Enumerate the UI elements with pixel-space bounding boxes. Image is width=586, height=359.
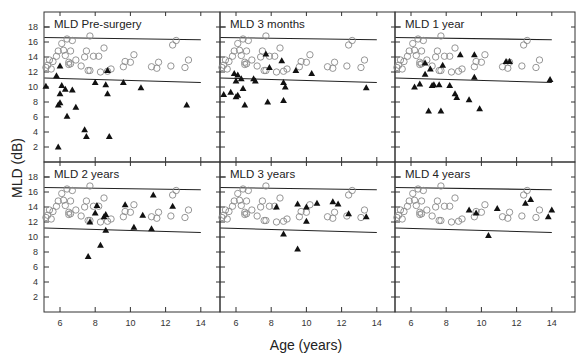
normal-point [243,48,249,54]
normal-point [131,202,137,208]
patient-point [97,242,104,248]
normal-point [418,198,424,204]
normal-point [533,64,539,70]
normal-point [520,42,526,48]
normal-point [59,40,65,46]
normal-point [243,198,249,204]
normal-point [78,63,84,69]
patient-point [314,200,321,206]
normal-point [307,52,313,58]
patient-point [457,51,464,57]
x-tick-label: 8 [444,318,449,328]
normal-point [418,48,424,54]
patient-point [363,84,370,90]
normal-point [432,204,438,210]
panel-4: 68101214MLD 3 years [219,162,395,328]
normal-point [434,198,440,204]
patient-point [308,70,315,76]
x-tick-label: 6 [57,318,62,328]
patient-point [85,253,92,259]
patient-point [278,57,285,63]
normal-point [482,202,488,208]
patient-point [150,191,157,197]
patient-point [57,99,64,105]
patient-point [329,198,336,204]
x-tick-label: 14 [547,318,557,328]
normal-point [78,213,84,219]
y-tick-label: 10 [28,232,38,242]
normal-point [536,207,542,213]
normal-point [173,187,179,193]
x-tick-label: 6 [408,318,413,328]
normal-point [536,57,542,63]
normal-point [424,207,430,213]
normal-point [361,57,367,63]
panels-group: 24681012141618MLD Pre-surgeryMLD 3 month… [28,12,575,328]
patient-point [416,80,423,86]
patient-point [87,218,94,224]
panel-5: 68101214MLD 4 years [394,162,575,328]
normal-point [358,64,364,70]
patient-point [69,86,76,92]
panel-0: 24681012141618MLD Pre-surgery [28,12,220,162]
patient-point [241,101,248,107]
normal-point [235,190,241,196]
x-tick-label: 10 [476,318,486,328]
normal-point [432,54,438,60]
normal-point [344,63,350,69]
patient-point [183,101,190,107]
normal-point [101,45,107,51]
normal-point [67,198,73,204]
patient-point [303,203,310,209]
panel-title: MLD 3 years [230,168,295,180]
normal-point [185,57,191,63]
x-tick-label: 6 [233,318,238,328]
normal-point [452,45,458,51]
patient-point [545,213,552,219]
normal-point [101,195,107,201]
normal-point [259,198,265,204]
patient-point [64,113,71,119]
normal-point [81,204,87,210]
y-tick-label: 16 [28,37,38,47]
normal-point [73,207,79,213]
patient-point [548,206,555,212]
panel-title: MLD 4 years [405,168,470,180]
normal-point [345,192,351,198]
patient-point [485,232,492,238]
normal-point [331,59,337,65]
patient-point [476,105,483,111]
normal-point [254,213,260,219]
normal-point [273,69,279,75]
y-tick-label: 16 [28,187,38,197]
y-tick-label: 4 [33,277,38,287]
normal-point [254,63,260,69]
patient-point [131,224,138,230]
patient-point [81,126,88,132]
patient-point [102,211,109,217]
normal-point [448,69,454,75]
normal-point [361,207,367,213]
y-tick-label: 6 [33,112,38,122]
normal-point [277,45,283,51]
patient-point [104,67,111,73]
patient-point [57,62,64,68]
patient-point [55,143,62,149]
normal-point [524,187,530,193]
x-tick-label: 12 [161,318,171,328]
patient-point [522,200,529,206]
panel-frame [44,162,220,312]
normal-limit-lower [220,228,376,233]
normal-point [169,42,175,48]
normal-point [168,213,174,219]
patient-point [72,104,79,110]
patient-point [494,205,501,211]
normal-point [533,214,539,220]
patient-point [294,200,301,206]
scatter-figure: 24681012141618MLD Pre-surgeryMLD 3 month… [0,0,586,359]
y-tick-label: 2 [33,142,38,152]
normal-point [155,209,161,215]
normal-point [506,209,512,215]
normal-point [349,37,355,43]
normal-point [73,57,79,63]
